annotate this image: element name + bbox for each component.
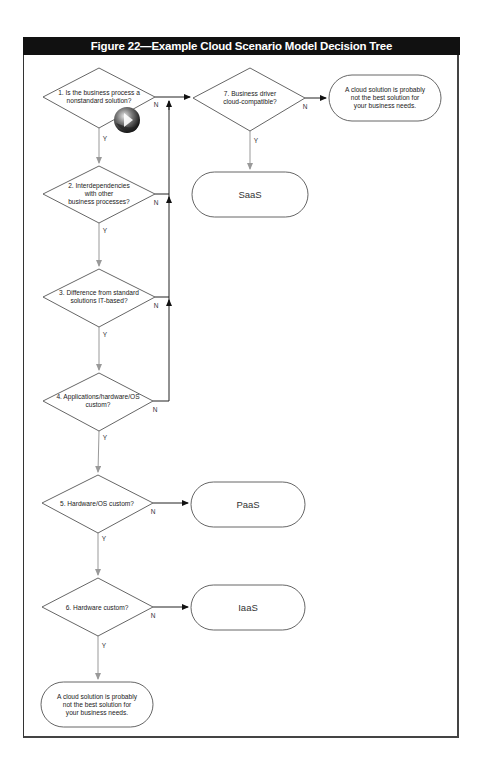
terminal-bottom-line-2: not the best solution for (63, 701, 132, 708)
decision-6-line-1: 6. Hardware custom? (66, 604, 129, 611)
terminal-top-line-2: not the best solution for (351, 94, 420, 101)
decision-5-yes-label: Y (102, 535, 107, 542)
decision-2-yes-label: Y (103, 227, 108, 234)
decision-2-line-1: 2. Interdependencies (68, 182, 130, 190)
terminal-not-best-top: A cloud solution is probably not the bes… (329, 75, 441, 121)
globe-play-icon[interactable] (114, 107, 140, 133)
svg-text:cloud-compatible?: cloud-compatible? (223, 98, 277, 106)
terminal-paas-label: PaaS (236, 499, 259, 510)
decision-1-yes-label: Y (103, 135, 108, 142)
decision-4-yes-label: Y (103, 434, 108, 441)
decision-6-yes-label: Y (102, 642, 107, 649)
decision-3-line-2: solutions IT-based? (70, 297, 128, 304)
decision-4: 4. Applications/hardware/OS custom? N Y (43, 373, 158, 441)
decision-1-no-label: N (154, 101, 159, 108)
decision-5: 5. Hardware/OS custom? N Y (42, 475, 156, 542)
decision-3-no-label: N (154, 302, 159, 309)
decision-5-line-1: 5. Hardware/OS custom? (60, 500, 134, 507)
decision-2: 2. Interdependencies with other business… (43, 166, 159, 234)
svg-text:custom?: custom? (86, 401, 111, 408)
decision-tree-diagram: 1. Is the business process a nonstandard… (0, 0, 485, 775)
decision-5-no-label: N (151, 508, 156, 515)
decision-2-no-label: N (154, 199, 159, 206)
decision-1-line-2: nonstandard solution? (67, 97, 132, 104)
svg-text:A cloud solution is probably: A cloud solution is probably (57, 693, 138, 701)
terminal-top-line-3: your business needs. (354, 102, 416, 110)
decision-7-line-1: 7. Business driver (224, 90, 277, 97)
svg-text:4. Applications/hardware/OS: 4. Applications/hardware/OS (56, 393, 140, 401)
svg-text:A cloud solution is probably: A cloud solution is probably (345, 86, 426, 94)
svg-text:business processes?: business processes? (68, 198, 130, 206)
svg-text:6. Hardware custom?: 6. Hardware custom? (66, 604, 129, 611)
terminal-bottom-line-1: A cloud solution is probably (57, 693, 138, 701)
svg-text:3. Difference from standard: 3. Difference from standard (59, 289, 139, 296)
svg-text:nonstandard solution?: nonstandard solution? (67, 97, 132, 104)
decision-7-line-2: cloud-compatible? (223, 98, 277, 106)
decision-3-yes-label: Y (103, 331, 108, 338)
decision-7-yes-label: Y (254, 137, 259, 144)
decision-2-line-2: with other (84, 190, 114, 197)
svg-text:with other: with other (84, 190, 114, 197)
decision-4-line-1: 4. Applications/hardware/OS (56, 393, 140, 401)
svg-text:not the best solution for: not the best solution for (63, 701, 132, 708)
svg-text:not the best solution for: not the best solution for (351, 94, 420, 101)
decision-4-no-label: N (153, 406, 158, 413)
decision-7-no-label: N (303, 103, 308, 110)
svg-text:2. Interdependencies: 2. Interdependencies (68, 182, 130, 190)
terminal-bottom-line-3: your business needs. (66, 709, 128, 717)
svg-text:5. Hardware/OS custom?: 5. Hardware/OS custom? (60, 500, 134, 507)
svg-text:your business needs.: your business needs. (66, 709, 128, 717)
decision-4-line-2: custom? (86, 401, 111, 408)
terminal-saas: SaaS (192, 172, 308, 217)
decision-3-line-1: 3. Difference from standard (59, 289, 139, 296)
decision-1: 1. Is the business process a nonstandard… (43, 68, 159, 142)
svg-text:1. Is the business process a: 1. Is the business process a (58, 89, 140, 97)
svg-text:solutions IT-based?: solutions IT-based? (70, 297, 128, 304)
decision-3: 3. Difference from standard solutions IT… (43, 269, 159, 338)
decision-6-no-label: N (151, 612, 156, 619)
decision-6: 6. Hardware custom? N Y (42, 578, 156, 649)
terminal-iaas: IaaS (191, 585, 305, 630)
terminal-iaas-label: IaaS (238, 602, 258, 613)
terminal-paas: PaaS (191, 482, 305, 527)
decision-2-line-3: business processes? (68, 198, 130, 206)
terminal-not-best-bottom: A cloud solution is probably not the bes… (41, 682, 153, 727)
svg-text:7. Business driver: 7. Business driver (224, 90, 277, 97)
terminal-top-line-1: A cloud solution is probably (345, 86, 426, 94)
decision-1-line-1: 1. Is the business process a (58, 89, 140, 97)
svg-text:your business needs.: your business needs. (354, 102, 416, 110)
terminal-saas-label: SaaS (238, 189, 261, 200)
